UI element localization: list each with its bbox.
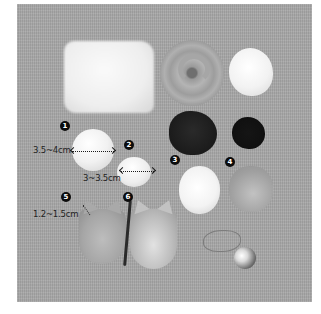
cat-ear — [157, 198, 176, 215]
felt-cat-body-5 — [79, 209, 126, 264]
white-wool-puff — [229, 48, 273, 96]
dark-wool-tuft-small — [232, 117, 265, 149]
dark-wool-tuft-large — [169, 111, 217, 155]
gray-roving-coil — [160, 40, 224, 106]
measurement-label-2: 3~3.5cm — [83, 173, 121, 183]
felt-cat-body-6 — [130, 209, 177, 269]
double-arrow-icon — [121, 171, 154, 172]
callout-badge-1: 1 — [60, 121, 70, 131]
cat-ear — [106, 198, 125, 215]
cat-ear — [130, 198, 149, 215]
white-felt-oval-3 — [179, 166, 220, 214]
glass-bead — [234, 247, 256, 269]
callout-badge-3: 3 — [170, 155, 180, 165]
callout-badge-4: 4 — [225, 157, 235, 167]
gray-felt-oval-4 — [229, 166, 273, 212]
measurement-label-5: 1.2~1.5cm — [33, 209, 78, 219]
wire-outline — [203, 230, 241, 252]
callout-badge-2: 2 — [124, 140, 134, 150]
white-wool-batt — [64, 41, 154, 113]
callout-badge-5: 5 — [61, 192, 71, 202]
measurement-label-1: 3.5~4cm — [33, 145, 71, 155]
double-arrow-icon — [72, 151, 114, 152]
callout-badge-6: 6 — [123, 192, 133, 202]
